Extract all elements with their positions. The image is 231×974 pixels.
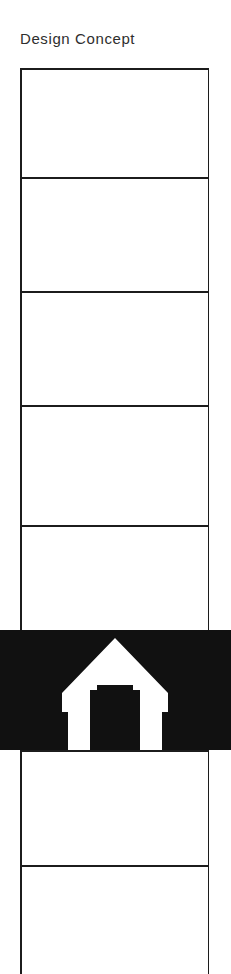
- list-item[interactable]: [22, 407, 208, 524]
- page-title: Design Concept: [20, 30, 135, 47]
- house-icon: [62, 638, 168, 750]
- list-item[interactable]: [22, 179, 208, 290]
- list-item[interactable]: [22, 293, 208, 404]
- list-item[interactable]: [22, 527, 208, 629]
- highlighted-panel-band[interactable]: [0, 630, 231, 750]
- panel-column-right-border: [208, 68, 210, 974]
- list-item[interactable]: [22, 70, 208, 176]
- list-item[interactable]: [22, 867, 208, 974]
- storyboard-panel-column: [20, 68, 209, 974]
- list-item[interactable]: [22, 752, 208, 864]
